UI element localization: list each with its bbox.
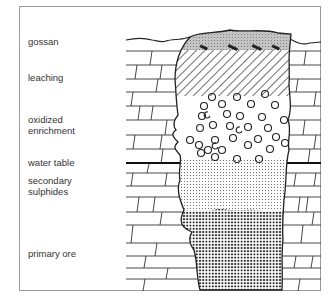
label-oxidized: oxidized (28, 114, 63, 125)
primary-ore-zone (170, 208, 295, 295)
leaching-zone (170, 50, 295, 96)
label-sulphides: sulphides (28, 186, 68, 197)
label-leaching: leaching (28, 72, 63, 83)
ground-surface-right (288, 38, 321, 44)
ore-vein (170, 28, 295, 295)
label-secondary: secondary (28, 175, 72, 186)
label-gossan: gossan (28, 36, 59, 47)
label-primary-ore: primary ore (28, 248, 76, 259)
ground-surface-left (126, 37, 190, 42)
label-enrichment: enrichment (28, 125, 75, 136)
label-water-table: water table (28, 157, 74, 168)
secondary-sulphides-zone (170, 160, 295, 210)
